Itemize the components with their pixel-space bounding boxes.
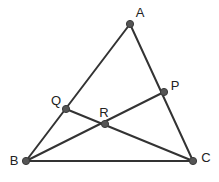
- segment-qc: [66, 109, 193, 161]
- segment-bp: [26, 92, 164, 161]
- geometry-figure: A B C P Q R: [0, 0, 219, 182]
- point-c-label: C: [201, 150, 210, 165]
- geometry-canvas: A B C P Q R: [0, 0, 219, 182]
- point-r-dot: [101, 120, 108, 127]
- point-b-label: B: [10, 153, 19, 168]
- point-p-dot: [160, 88, 167, 95]
- point-p-label: P: [171, 78, 180, 93]
- point-q-dot: [62, 105, 69, 112]
- point-b-dot: [22, 157, 29, 164]
- segment-ab: [26, 24, 130, 161]
- point-r-label: R: [99, 105, 108, 120]
- point-a-label: A: [136, 5, 145, 20]
- point-a-dot: [126, 20, 133, 27]
- point-q-label: Q: [51, 93, 61, 108]
- point-c-dot: [189, 157, 196, 164]
